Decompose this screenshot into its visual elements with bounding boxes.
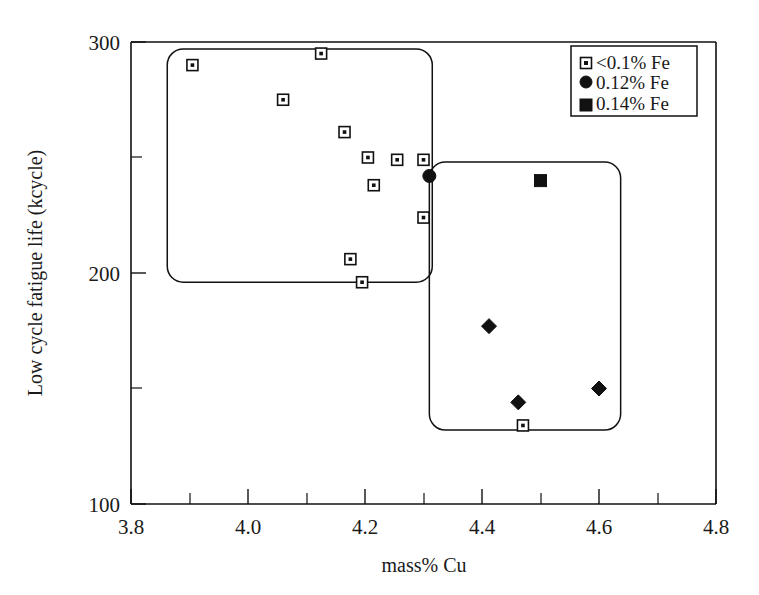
filled-square-icon [580, 99, 592, 111]
data-point[interactable] [357, 277, 368, 288]
x-tick-label-4-0: 4.0 [235, 515, 261, 539]
data-point[interactable] [592, 381, 607, 396]
series-3 [482, 319, 607, 410]
x-tick-label-4-4: 4.4 [469, 515, 496, 539]
data-point[interactable] [278, 94, 289, 105]
scatter-plot-canvas: 300 200 100 3.8 4.0 4.2 4.4 4.6 4.8 mass… [0, 0, 759, 595]
open-square-center-dot-icon [584, 61, 588, 65]
data-point[interactable] [345, 254, 356, 265]
data-points-layer [187, 48, 607, 431]
x-axis-title: mass% Cu [382, 554, 467, 576]
data-point[interactable] [339, 127, 350, 138]
data-point[interactable] [511, 395, 526, 410]
data-point[interactable] [418, 154, 429, 165]
data-point[interactable] [392, 154, 403, 165]
high-fe-group-box [429, 162, 620, 430]
data-point[interactable] [482, 319, 497, 334]
x-tick-label-4-2: 4.2 [352, 515, 378, 539]
y-axis-ticks [131, 42, 146, 504]
data-point[interactable] [418, 212, 429, 223]
x-tick-label-4-8: 4.8 [703, 515, 729, 539]
x-tick-labels: 3.8 4.0 4.2 4.4 4.6 4.8 [118, 515, 729, 539]
y-tick-labels: 300 200 100 [89, 31, 121, 517]
filled-circle-icon [580, 76, 592, 88]
group-annotation-boxes [167, 49, 620, 430]
y-tick-label-300: 300 [89, 31, 121, 55]
data-point[interactable] [535, 175, 547, 187]
y-axis-title: Low cycle fatigue life (kcycle) [24, 150, 47, 397]
data-point[interactable] [423, 169, 436, 182]
data-point[interactable] [362, 152, 373, 163]
x-tick-label-4-6: 4.6 [586, 515, 612, 539]
series-0 [187, 48, 529, 431]
data-point[interactable] [517, 420, 528, 431]
legend-label-1: 0.12% Fe [596, 72, 669, 93]
y-tick-label-100: 100 [89, 493, 121, 517]
x-axis-ticks [131, 489, 716, 504]
data-point[interactable] [316, 48, 327, 59]
data-point[interactable] [368, 180, 379, 191]
x-tick-label-3-8: 3.8 [118, 515, 144, 539]
data-point[interactable] [187, 60, 198, 71]
legend: <0.1% Fe 0.12% Fe 0.14% Fe [571, 46, 697, 116]
legend-label-0: <0.1% Fe [596, 52, 670, 73]
legend-label-2: 0.14% Fe [596, 93, 669, 114]
y-tick-label-200: 200 [89, 262, 121, 286]
series-2 [535, 175, 547, 187]
series-1 [423, 169, 436, 182]
chart-figure: 300 200 100 3.8 4.0 4.2 4.4 4.6 4.8 mass… [0, 0, 759, 595]
